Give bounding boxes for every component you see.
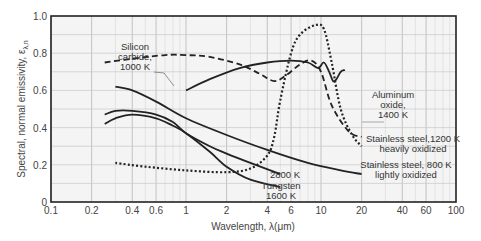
curve-label: Tungsten1600 K [261, 180, 300, 201]
x-tick-label: 10 [315, 205, 327, 216]
x-tick-label: 4 [264, 205, 270, 216]
x-tick-label: 0.4 [125, 205, 139, 216]
x-tick-label: 6 [288, 205, 294, 216]
x-axis-label: Wavelength, λ(μm) [211, 221, 295, 232]
emissivity-chart: 0.10.20.40.6124610204060100 00.20.40.60.… [0, 0, 481, 241]
x-tick-label: 0.6 [149, 205, 163, 216]
x-tick-label: 60 [420, 205, 432, 216]
y-tick-label: 0.4 [33, 123, 47, 134]
curve-label: 2800 K [270, 169, 301, 180]
y-tick-label: 0.6 [33, 85, 47, 96]
y-tick-label: 0.8 [33, 48, 47, 59]
x-tick-label: 40 [397, 205, 409, 216]
x-tick-label: 1 [183, 205, 189, 216]
y-tick-labels: 00.20.40.60.81.0 [33, 11, 47, 208]
y-tick-label: 0.2 [33, 160, 47, 171]
curve-label: Siliconcarbide,1000 K [118, 41, 152, 72]
x-tick-label: 0.2 [85, 205, 99, 216]
x-tick-label: 100 [448, 205, 465, 216]
y-tick-label: 0 [41, 197, 47, 208]
y-axis-label: Spectral, normal emissivity, ελ,n [16, 40, 29, 178]
x-tick-labels: 0.10.20.40.6124610204060100 [44, 205, 465, 216]
x-tick-label: 2 [224, 205, 230, 216]
curve-label: Stainless steel,1200 Kheavily oxidized [366, 133, 461, 154]
x-tick-label: 20 [356, 205, 368, 216]
y-tick-label: 1.0 [33, 11, 47, 22]
